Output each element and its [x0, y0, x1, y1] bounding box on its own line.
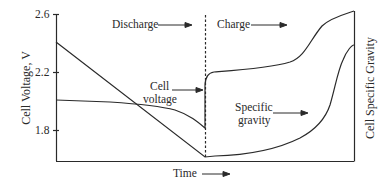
time-arrowhead-icon: [223, 172, 230, 177]
cell-voltage-annotation-line1: Cell: [150, 80, 169, 93]
specific-gravity-annotation-line2: gravity: [238, 114, 271, 127]
y-axis-left-label: Cell Voltage, V: [19, 51, 33, 125]
y-axis-right-label: Cell Specific Gravity: [363, 37, 377, 139]
charge-label: Charge: [217, 18, 250, 31]
battery-charge-discharge-chart: Cell Voltage, V Cell Specific Gravity: [0, 0, 387, 184]
specific-gravity-annotation-line1: Specific: [235, 101, 273, 114]
tick-label-2-6: 2.6: [35, 8, 49, 21]
tick-label-1-8: 1.8: [35, 124, 49, 137]
specific-gravity-pointer-head-icon: [301, 111, 308, 116]
cell-voltage-pointer-head-icon: [196, 88, 203, 93]
charge-arrowhead-icon: [280, 23, 287, 28]
cell-voltage-annotation-line2: voltage: [143, 93, 177, 106]
x-axis-label: Time: [173, 167, 197, 180]
discharge-label: Discharge: [112, 18, 158, 31]
discharge-arrowhead-icon: [185, 23, 192, 28]
tick-label-2-2: 2.2: [35, 66, 49, 79]
